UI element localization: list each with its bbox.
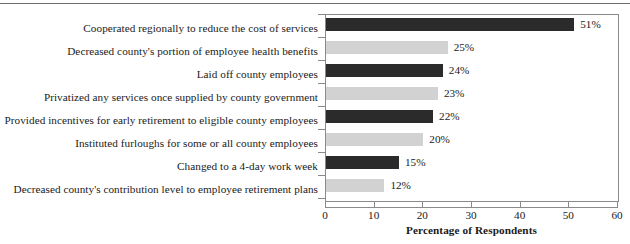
- bar-value-label: 15%: [405, 156, 426, 169]
- bar: [326, 18, 574, 31]
- bar-value-label: 51%: [580, 18, 601, 31]
- y-axis-tick: [318, 106, 325, 107]
- y-axis-tick: [318, 198, 325, 199]
- category-label: Privatized any services once supplied by…: [0, 86, 318, 109]
- y-axis-tick: [318, 175, 325, 176]
- x-axis-tick-label: 40: [500, 209, 540, 221]
- bar-value-label: 22%: [439, 110, 460, 123]
- x-axis-tick-label: 30: [451, 209, 491, 221]
- x-axis-tick-label: 0: [305, 209, 345, 221]
- bar-value-label: 24%: [449, 64, 470, 77]
- category-label: Cooperated regionally to reduce the cost…: [0, 17, 318, 40]
- x-axis-tick: [422, 201, 423, 208]
- x-axis-tick-label: 10: [354, 209, 394, 221]
- y-axis-tick: [318, 129, 325, 130]
- category-axis-labels: Cooperated regionally to reduce the cost…: [0, 14, 318, 200]
- bar: [326, 64, 443, 77]
- x-axis-tick: [617, 201, 618, 208]
- y-axis-tick: [318, 83, 325, 84]
- plot-area: 51%25%24%23%22%20%15%12%: [326, 15, 618, 201]
- top-divider-rule: [0, 3, 630, 4]
- bar: [326, 156, 399, 169]
- category-label: Provided incentives for early retirement…: [0, 109, 318, 132]
- bar: [326, 179, 384, 192]
- x-axis-tick-label: 60: [597, 209, 630, 221]
- category-label: Decreased county's portion of employee h…: [0, 40, 318, 63]
- bar-value-label: 23%: [444, 87, 465, 100]
- bar: [326, 110, 433, 123]
- category-label: Instituted furloughs for some or all cou…: [0, 132, 318, 155]
- y-axis-tick: [318, 37, 325, 38]
- bar-value-label: 20%: [429, 133, 450, 146]
- bar: [326, 41, 448, 54]
- bar: [326, 133, 423, 146]
- bar-chart-figure: Cooperated regionally to reduce the cost…: [0, 0, 630, 244]
- x-axis-tick: [568, 201, 569, 208]
- x-axis-tick: [471, 201, 472, 208]
- bar-value-label: 12%: [390, 179, 411, 192]
- y-axis-tick: [318, 152, 325, 153]
- x-axis-tick: [520, 201, 521, 208]
- x-axis-tick: [325, 201, 326, 208]
- category-label: Laid off county employees: [0, 63, 318, 86]
- category-label: Decreased county's contribution level to…: [0, 178, 318, 201]
- y-axis-tick: [318, 60, 325, 61]
- x-axis-tick-label: 20: [402, 209, 442, 221]
- bar-value-label: 25%: [454, 41, 475, 54]
- x-axis-title: Percentage of Respondents: [325, 224, 618, 236]
- x-axis-tick-label: 50: [548, 209, 588, 221]
- y-axis-tick: [318, 14, 325, 15]
- category-label: Changed to a 4-day work week: [0, 155, 318, 178]
- bar: [326, 87, 438, 100]
- x-axis-tick: [374, 201, 375, 208]
